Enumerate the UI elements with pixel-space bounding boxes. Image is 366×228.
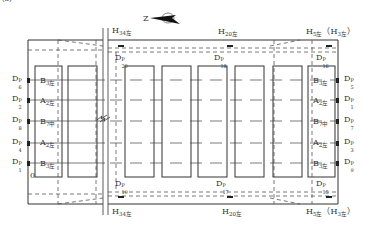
origin-label: 0 xyxy=(30,172,35,180)
sensor-left-d8: DP8 xyxy=(12,116,18,124)
right-box-label-1: A2左 xyxy=(313,97,328,107)
figure-label: (a) xyxy=(2,0,12,3)
break-line xyxy=(97,28,110,215)
sensor-left-d4: DP4 xyxy=(12,138,18,146)
sensor-d17: DP17 xyxy=(216,180,222,188)
sensor-right-d7r: DP7 xyxy=(344,116,350,124)
right-box-label-0: B3左 xyxy=(313,77,328,87)
sensor-right-d3r: DP3 xyxy=(344,138,350,146)
sensor-d16: DP16 xyxy=(316,54,322,62)
sensor-right-d9r: DP9 xyxy=(344,158,350,166)
label-h34-bottom: H34左 xyxy=(112,208,132,218)
left-box-label-1: A2左 xyxy=(40,97,55,107)
label-h20-bottom: H20左 xyxy=(222,208,242,218)
left-box-label-0: B3左 xyxy=(40,77,55,87)
right-box-label-2: B7中 xyxy=(313,118,328,128)
label-h5-top: H5左（H3左） xyxy=(306,28,355,38)
sensor-ticks xyxy=(27,45,339,198)
tank-boxes xyxy=(35,66,335,177)
dashed-guides xyxy=(28,40,338,204)
outer-frame xyxy=(28,40,338,204)
left-box-label-4: B3左 xyxy=(40,160,55,170)
sensor-right-d5r: DP5 xyxy=(344,75,350,83)
label-h20-top: H20左 xyxy=(218,28,238,38)
sensor-d15: DP15 xyxy=(316,180,322,188)
right-box-label-3: A2左 xyxy=(313,139,328,149)
left-box-label-2: B7中 xyxy=(40,118,55,128)
sensor-left-d6: DP6 xyxy=(12,75,18,83)
sensor-d20: DP20 xyxy=(115,54,121,62)
sensor-d18: DP18 xyxy=(214,54,220,62)
north-arrow-icon xyxy=(150,13,180,24)
label-h5-bottom: H5左（H3左） xyxy=(306,208,355,218)
sensor-left-d2: DP2 xyxy=(12,95,18,103)
label-h34-top: H34左 xyxy=(112,27,132,37)
sensor-d19: DP19 xyxy=(115,180,121,188)
sensor-left-d1: DP1 xyxy=(12,158,18,166)
north-letter: Z xyxy=(143,15,149,23)
measure-lines xyxy=(28,80,338,163)
sensor-right-d1r: DP1 xyxy=(344,95,350,103)
left-box-label-3: A2左 xyxy=(40,139,55,149)
right-box-label-4: B3左 xyxy=(313,160,328,170)
